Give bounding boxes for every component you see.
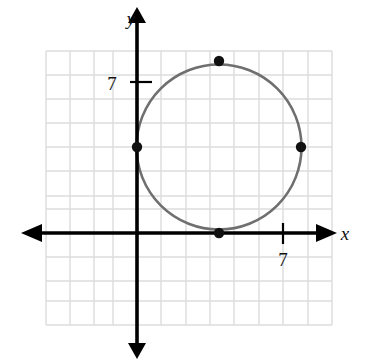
point-left[interactable] [132, 142, 142, 152]
point-top[interactable] [214, 56, 224, 66]
x-axis-arrow-right-icon [316, 224, 337, 242]
y-axis-arrow-down-icon [128, 343, 146, 359]
y-axis-tick-label-7: 7 [107, 73, 117, 94]
x-axis-arrow-left-icon [21, 224, 42, 242]
x-axis-tick-label-7: 7 [278, 249, 288, 270]
point-bottom[interactable] [214, 228, 224, 238]
x-axis-label: x [340, 223, 350, 244]
coordinate-plane-figure: 7 7 x y [0, 0, 368, 364]
figure-canvas: 7 7 x y [0, 0, 368, 364]
y-axis-label: y [125, 8, 136, 29]
axes [41, 22, 317, 344]
axis-arrowheads [21, 7, 337, 359]
point-right[interactable] [296, 142, 306, 152]
